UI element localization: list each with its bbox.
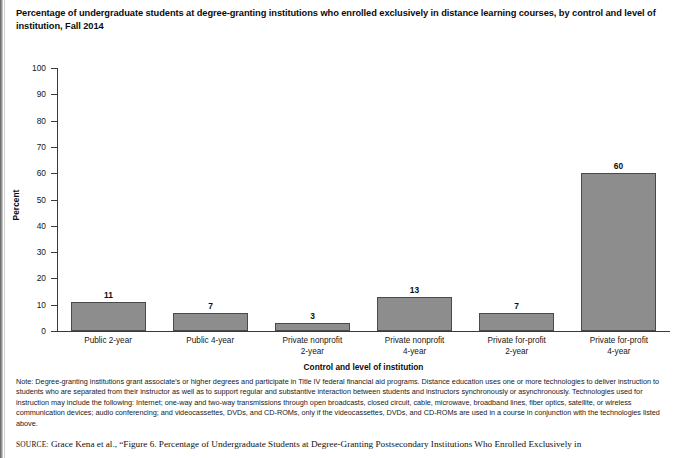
y-axis-tick-label: 20 <box>0 273 46 283</box>
bar-value-label: 7 <box>173 301 248 311</box>
y-axis-tick-label: 40 <box>0 221 46 231</box>
y-axis-tick <box>51 68 57 69</box>
y-axis-tick <box>51 252 57 253</box>
bar <box>173 313 248 331</box>
category-label-line: 2-year <box>466 347 568 358</box>
x-axis-category-label: Private for-profit2-year <box>466 336 568 357</box>
category-label-line: Public 2-year <box>57 336 159 347</box>
y-axis-tick <box>51 147 57 148</box>
y-axis-tick <box>51 305 57 306</box>
bar-value-label: 13 <box>377 285 452 295</box>
y-axis-tick-label: 10 <box>0 300 46 310</box>
y-axis-tick <box>51 94 57 95</box>
y-axis-tick <box>51 173 57 174</box>
y-axis-tick-label: 30 <box>0 247 46 257</box>
y-axis-tick <box>51 121 57 122</box>
bar-value-label: 3 <box>275 311 350 321</box>
y-axis-tick <box>51 200 57 201</box>
source-text: Grace Kena et al., “Figure 6. Percentage… <box>51 439 581 449</box>
x-axis-category-label: Private nonprofit4-year <box>364 336 466 357</box>
bar-value-label: 11 <box>71 290 146 300</box>
bar <box>581 173 656 331</box>
y-axis-tick <box>51 331 57 332</box>
x-axis-category-label: Private for-profit4-year <box>568 336 670 357</box>
y-axis-tick-label: 80 <box>0 116 46 126</box>
bar <box>479 313 554 331</box>
y-axis-tick-label: 50 <box>0 195 46 205</box>
bar-chart: Percent 0102030405060708090100 117313760… <box>0 60 678 372</box>
x-axis-category-label: Public 2-year <box>57 336 159 347</box>
y-axis-tick-label: 70 <box>0 142 46 152</box>
bar <box>71 302 146 331</box>
x-axis-line <box>57 331 670 332</box>
category-label-line: Private for-profit <box>466 336 568 347</box>
x-axis-category-label: Private nonprofit2-year <box>261 336 363 357</box>
bar-value-label: 7 <box>479 301 554 311</box>
category-label-line: Private for-profit <box>568 336 670 347</box>
category-label-line: Public 4-year <box>159 336 261 347</box>
y-axis-tick <box>51 278 57 279</box>
bar <box>377 297 452 331</box>
figure-source: SOURCE: Grace Kena et al., “Figure 6. Pe… <box>16 438 678 451</box>
y-axis-tick <box>51 226 57 227</box>
category-label-line: Private nonprofit <box>261 336 363 347</box>
category-label-line: 4-year <box>568 347 670 358</box>
y-axis-tick-label: 60 <box>0 168 46 178</box>
bar-value-label: 60 <box>581 161 656 171</box>
x-axis-label: Control and level of institution <box>57 362 670 372</box>
bar <box>275 323 350 331</box>
category-label-line: Private nonprofit <box>364 336 466 347</box>
y-axis-tick-label: 0 <box>0 326 46 336</box>
figure-note: Note: Degree-granting institutions grant… <box>16 377 670 429</box>
note-text: Degree-granting institutions grant assoc… <box>16 377 660 428</box>
y-axis-tick-label: 100 <box>0 63 46 73</box>
category-label-line: 2-year <box>261 347 363 358</box>
source-label: SOURCE: <box>16 440 49 449</box>
x-axis-category-label: Public 4-year <box>159 336 261 347</box>
figure-title: Percentage of undergraduate students at … <box>16 7 664 33</box>
note-label: Note: <box>16 377 33 386</box>
y-axis-line <box>57 68 58 332</box>
y-axis-tick-label: 90 <box>0 89 46 99</box>
category-label-line: 4-year <box>364 347 466 358</box>
